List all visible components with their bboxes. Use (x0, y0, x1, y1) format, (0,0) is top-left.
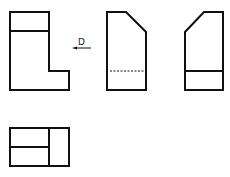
direction-label: D (78, 37, 85, 47)
arrow-head-icon (72, 47, 77, 50)
top-view (10, 128, 69, 166)
side-view-hidden (107, 12, 146, 90)
direction-arrow: D (72, 37, 91, 50)
side-view (185, 12, 223, 90)
front-view (10, 12, 69, 90)
drawing-canvas: D (0, 0, 230, 177)
